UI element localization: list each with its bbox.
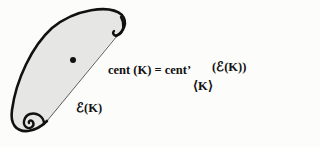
equation-subscript: ⟨K⟩ [193, 80, 213, 93]
equation-lhs: cent (K) = cent’ [108, 64, 191, 77]
center-point [70, 57, 76, 63]
equation-argument: (ℰ(K)) [212, 61, 246, 74]
set-label: ℰ(K) [76, 102, 102, 115]
